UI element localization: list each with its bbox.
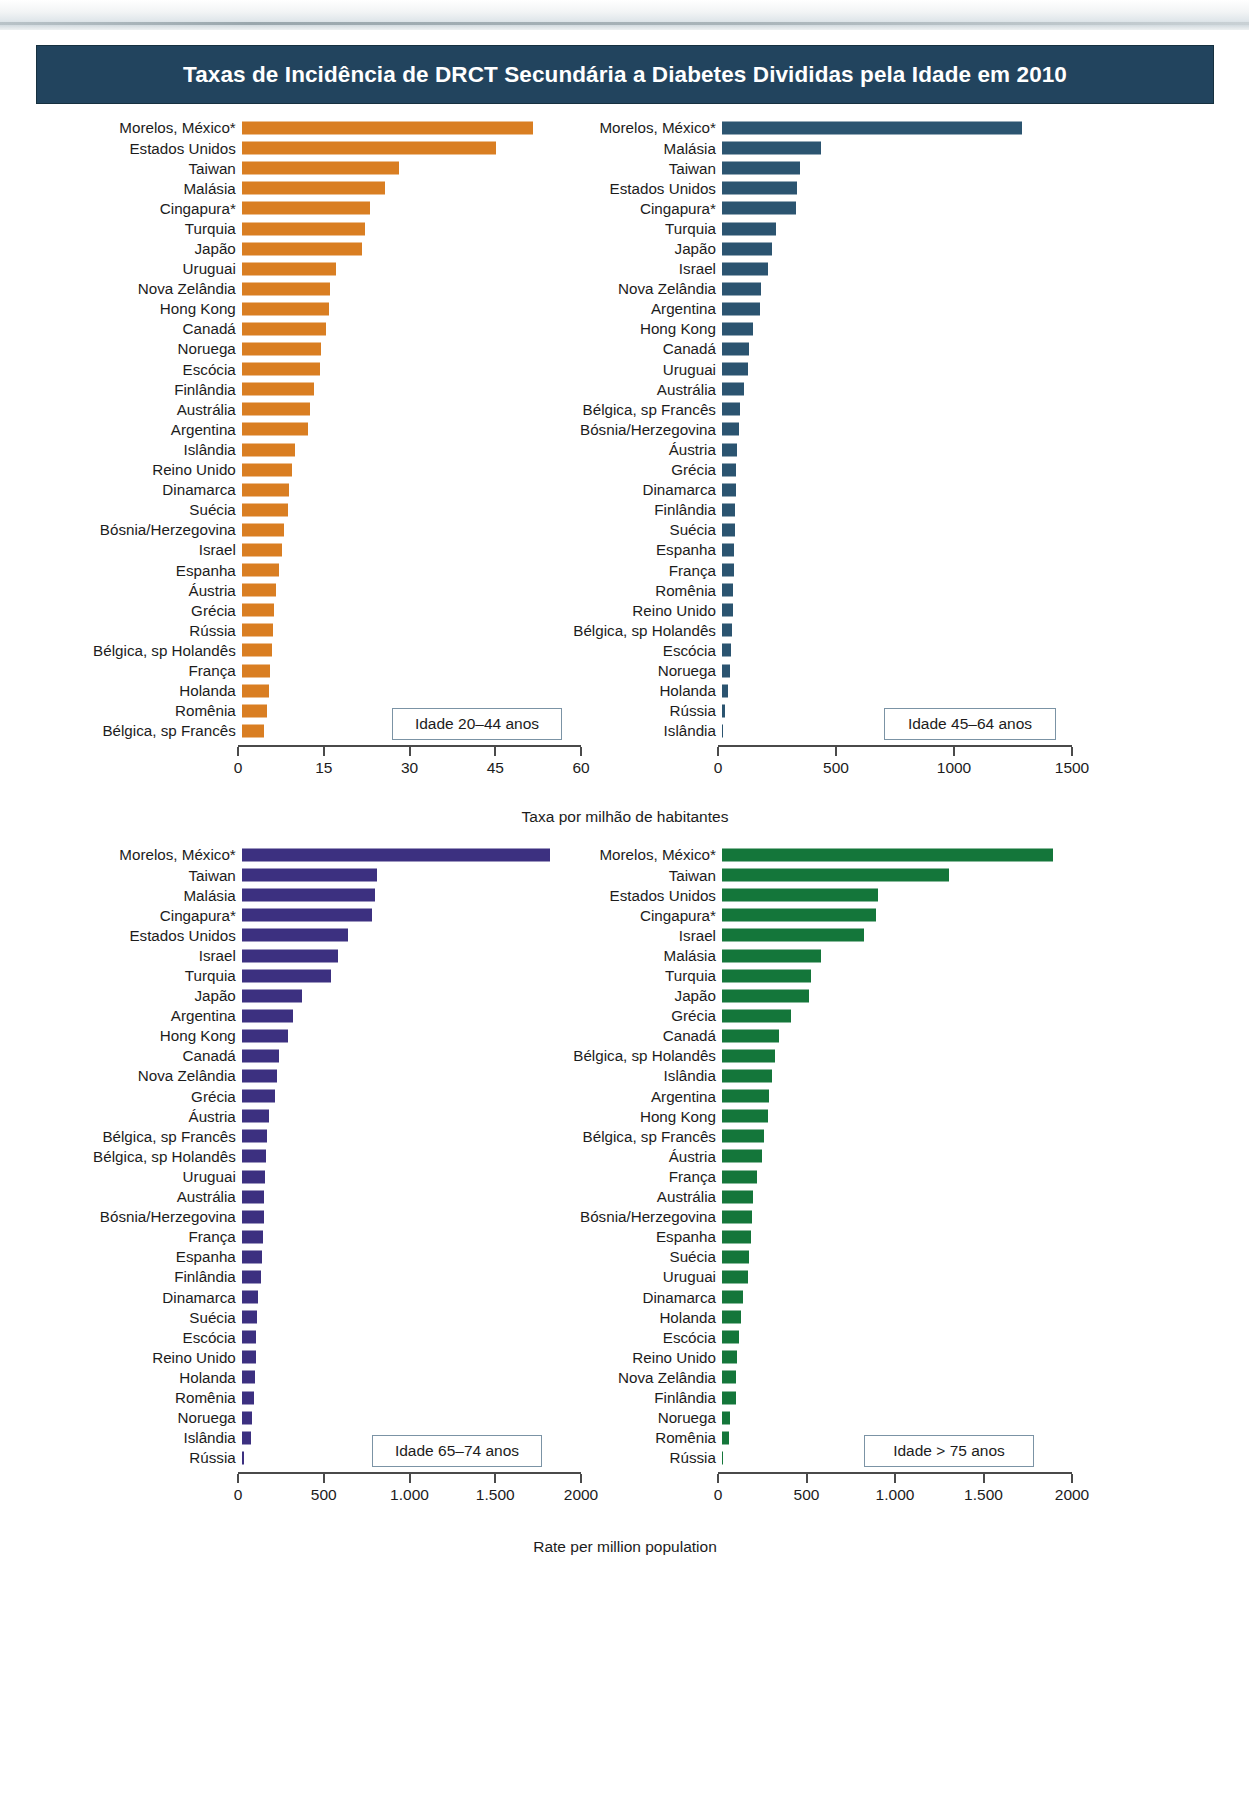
category-label: Holanda [40,683,242,698]
category-label: Uruguai [40,261,242,276]
category-label: Rússia [534,1450,722,1465]
bar [722,242,772,255]
bar [722,1070,772,1083]
bar-track [722,1408,1072,1428]
category-label: Israel [40,948,242,963]
bar-track [722,178,1072,198]
bar-track [242,520,581,540]
chart-row: Espanha [534,540,1072,560]
chart-row: Espanha [40,560,581,580]
category-label: Romênia [534,583,722,598]
bar-track [242,379,581,399]
bar-track [242,1106,581,1126]
bar-track [242,966,581,986]
bar [242,523,284,536]
bar-track [242,1408,581,1428]
bar [722,544,734,557]
chart-row: Bósnia/Herzegovina [40,520,581,540]
bar [722,564,734,577]
bar [722,664,730,677]
category-label: Rússia [534,703,722,718]
x-axis-tick-label: 15 [315,759,332,777]
chart-row: Cingapura* [40,905,581,925]
category-label: Grécia [40,1089,242,1104]
bar-track [242,661,581,681]
bar [722,1431,729,1444]
bar-track [242,178,581,198]
x-axis-tick [835,747,837,756]
chart-row: Argentina [534,1086,1072,1106]
x-axis-tick [806,1474,808,1483]
category-label: Áustria [40,583,242,598]
category-label: Cingapura* [534,201,722,216]
bar-track [722,661,1072,681]
bar-track [242,925,581,945]
chart-row: Japão [534,239,1072,259]
category-label: Romênia [534,1430,722,1445]
bar [242,222,365,235]
chart-row: Japão [40,986,581,1006]
chart-row: Nova Zelândia [40,279,581,299]
bar-track [242,460,581,480]
category-label: Islândia [534,1068,722,1083]
chart-row: Malásia [534,138,1072,158]
category-label: Noruega [534,663,722,678]
bar-track [722,1287,1072,1307]
category-label: Austrália [40,1189,242,1204]
bar [722,1331,739,1344]
chart-panel-panel2: Morelos, México*MalásiaTaiwanEstados Uni… [534,118,1098,811]
category-label: Nova Zelândia [40,281,242,296]
category-label: Turquia [534,221,722,236]
bar-track [242,905,581,925]
bar-track [722,945,1072,965]
bar-track [722,198,1072,218]
bar [242,1311,257,1324]
chart-row: Estados Unidos [40,925,581,945]
bar-track [242,620,581,640]
category-label: Grécia [534,462,722,477]
bar [242,343,321,356]
bar [242,1431,251,1444]
x-axis-tick [237,747,239,756]
category-label: Dinamarca [534,482,722,497]
chart-row: Áustria [534,440,1072,460]
chart-row: Morelos, México* [40,118,581,138]
bar-track [242,279,581,299]
category-label: Escócia [534,643,722,658]
bar [242,1271,261,1284]
bar-track [722,681,1072,701]
chart-row: Finlândia [534,500,1072,520]
category-label: Romênia [40,703,242,718]
bar-track [722,620,1072,640]
bar [242,1250,262,1263]
category-label: Reino Unido [534,603,722,618]
bar [242,1391,254,1404]
chart-row: Malásia [40,885,581,905]
chart-row: Taiwan [40,158,581,178]
chart-row: Reino Unido [40,1347,581,1367]
bar [722,122,1022,135]
chart-row: Espanha [534,1227,1072,1247]
page-title: Taxas de Incidência de DRCT Secundária a… [183,62,1067,88]
category-label: Austrália [40,402,242,417]
bar [242,282,331,295]
bar-track [242,198,581,218]
chart-row: Noruega [534,661,1072,681]
scanned-page-top-strip [0,0,1249,30]
category-label: Estados Unidos [40,141,242,156]
chart-row: Nova Zelândia [40,1066,581,1086]
category-label: Finlândia [534,502,722,517]
category-label: Argentina [40,422,242,437]
category-label: Noruega [40,1410,242,1425]
bar-track [722,1086,1072,1106]
category-label: Taiwan [40,161,242,176]
bar [242,363,320,376]
bar [242,1150,266,1163]
chart-rows: Morelos, México*TaiwanEstados UnidosCing… [534,845,1072,1468]
chart-panel-panel1: Morelos, México*Estados UnidosTaiwanMalá… [40,118,607,811]
bar-track [722,1367,1072,1387]
chart-row: Reino Unido [534,1347,1072,1367]
category-label: Romênia [40,1390,242,1405]
category-label: Turquia [40,968,242,983]
chart-row: Noruega [40,339,581,359]
